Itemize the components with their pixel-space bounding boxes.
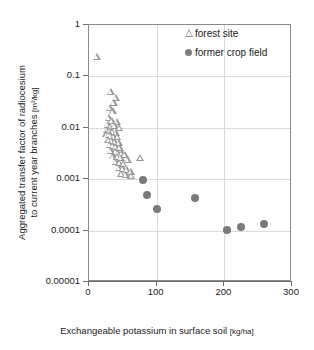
data-point-forest-site xyxy=(127,172,135,179)
legend-label: forest site xyxy=(195,28,238,39)
x-axis-unit: [kg/ha] xyxy=(230,327,254,336)
data-point-forest-site xyxy=(124,156,132,163)
data-point-forest-site xyxy=(93,53,101,60)
chart-figure: 10.10.010.0010.00010.00001 0100200300 fo… xyxy=(0,0,314,350)
x-axis-tick-label: 300 xyxy=(271,287,311,297)
y-axis-unit: [m²/kg] xyxy=(30,87,39,111)
x-axis-title: Exchangeable potassium in surface soil [… xyxy=(0,325,314,336)
x-axis-title-text: Exchangeable potassium in surface soil xyxy=(60,325,227,336)
legend-item-former-crop-field: former crop field xyxy=(182,46,267,58)
legend-marker-glyph xyxy=(185,49,192,56)
legend-marker-glyph xyxy=(185,29,193,37)
y-axis-title-line2: to current year branches xyxy=(28,115,39,218)
data-point-former-crop-field xyxy=(153,205,161,213)
x-axis-tick-label: 0 xyxy=(68,287,108,297)
legend-item-forest-site: forest site xyxy=(182,27,267,39)
gridline-horizontal xyxy=(89,231,290,232)
data-point-former-crop-field xyxy=(237,223,245,231)
y-axis-title-line1: Aggregated transfer factor of radiocesiu… xyxy=(16,65,27,240)
open-triangle-icon xyxy=(182,29,195,37)
data-point-forest-site xyxy=(136,154,144,161)
gridline-horizontal xyxy=(89,179,290,180)
chart-legend: forest siteformer crop field xyxy=(182,27,267,65)
legend-label: former crop field xyxy=(195,47,267,58)
x-axis-tick-label: 100 xyxy=(136,287,176,297)
data-point-former-crop-field xyxy=(223,226,231,234)
filled-circle-icon xyxy=(182,49,195,56)
data-point-forest-site xyxy=(110,99,118,106)
data-point-former-crop-field xyxy=(260,220,268,228)
gridline-vertical xyxy=(157,25,158,280)
y-axis-title: Aggregated transfer factor of radiocesiu… xyxy=(16,18,41,288)
gridline-horizontal xyxy=(89,76,290,77)
x-axis-line xyxy=(88,281,292,282)
x-axis-tick-label: 200 xyxy=(203,287,243,297)
